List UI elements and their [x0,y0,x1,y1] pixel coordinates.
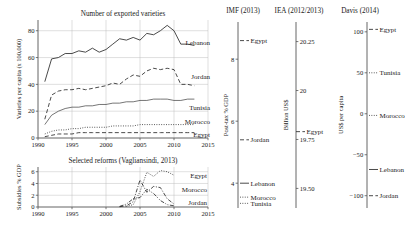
axis-title: Post-tax % GDP [222,93,229,136]
series-line-morocco [120,180,174,207]
x-tick-label: 2000 [99,210,113,217]
y-tick-label: 4 [31,180,35,187]
y-tick-label: 60 [28,54,35,61]
panel-header-davis: Davis (2014) [341,7,379,15]
point-label-tunisia: Tunisia [251,200,273,208]
axis-tick-label: −100 [350,192,364,199]
figure-svg: Number of exported varieties020406080199… [0,0,405,239]
axis-tick-label: 20.25 [300,38,316,45]
series-line-egypt [126,171,174,207]
y-tick-label: 6 [31,168,35,175]
point-label-lebanon: Lebanon [251,180,276,188]
y-tick-label: 2 [31,192,34,199]
x-tick-label: 1990 [31,141,45,148]
axis-tick-label: 4 [231,180,235,187]
x-tick-label: 2005 [133,210,147,217]
series-label-tunisia: Tunisia [189,104,211,112]
series-label-morocco: Morocco [185,118,211,126]
point-label-tunisia: Tunisia [380,69,402,77]
figure-container: Number of exported varieties020406080199… [0,0,405,239]
x-tick-label: 2010 [167,210,181,217]
y-axis-label: Subsidies % GDP [15,164,22,210]
axis-tick-label: −50 [353,151,364,158]
y-axis-label: Varieties per capita (x 100,000) [15,39,23,119]
x-tick-label: 1990 [31,210,45,217]
x-tick-label: 2015 [201,141,215,148]
series-label-lebanon: Lebanon [186,39,211,47]
axis-tick-label: 100 [353,28,364,35]
y-tick-label: 20 [28,107,35,114]
x-tick-label: 2000 [99,141,113,148]
series-label-jordan: Jordan [188,199,207,207]
x-tick-label: 2010 [167,141,181,148]
series-line-lebanon [45,25,195,81]
series-label-morocco: Morocco [182,186,208,194]
y-tick-label: 40 [28,81,35,88]
x-tick-label: 1995 [65,210,79,217]
point-label-egypt: Egypt [380,26,397,34]
axis-title: Billion US$ [282,100,289,131]
axis-tick-label: 6 [231,118,235,125]
chart-iea-2012-2013: 19.5019.752020.25Billion US$Egypt [282,22,323,208]
panel-header-imf: IMF (2013) [226,7,260,15]
point-label-lebanon: Lebanon [380,166,405,174]
series-label-jordan: Jordan [191,73,210,81]
axis-tick-label: 19.50 [300,185,316,192]
chart-title: Number of exported varieties [81,10,166,18]
series-label-egypt: Egypt [190,172,207,180]
x-tick-label: 1995 [65,141,79,148]
axis-title: US$ per capita [337,96,344,134]
axis-tick-label: 19.75 [300,136,316,143]
point-label-egypt: Egypt [307,128,324,136]
axis-tick-label: 20 [300,87,307,94]
panel-header-iea: IEA (2012/2013) [275,7,325,15]
axis-tick-label: 0 [360,110,364,117]
chart-selected-reforms: Selected reforms (Vagliansindi, 2013)024… [15,157,215,217]
series-line-jordan [45,68,195,119]
axis-tick-label: 50 [357,69,364,76]
point-label-morocco: Morocco [380,112,405,120]
y-tick-label: 80 [28,27,35,34]
chart-exported-varieties: Number of exported varieties020406080199… [15,10,215,148]
point-label-egypt: Egypt [251,37,268,45]
series-line-tunisia [45,99,195,124]
chart-imf-2013: 468Post-tax % GDPEgyptJordanLebanonMoroc… [222,22,276,208]
x-tick-label: 2005 [133,141,147,148]
series-line-morocco [45,125,195,134]
chart-davis-2014: 100500−50−100US$ per capitaEgyptTunisiaM… [337,22,405,208]
point-label-jordan: Jordan [380,192,399,200]
x-tick-label: 2015 [201,210,215,217]
axis-tick-label: 8 [231,56,235,63]
series-line-egypt [45,133,195,137]
point-label-jordan: Jordan [251,136,270,144]
series-label-egypt: Egypt [193,131,210,139]
chart-title: Selected reforms (Vagliansindi, 2013) [69,157,179,165]
